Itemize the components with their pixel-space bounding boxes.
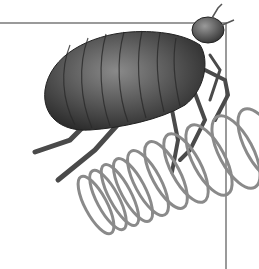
flea-body	[45, 31, 205, 130]
illustration	[0, 0, 259, 269]
flea-head	[192, 4, 234, 43]
flea-spring-artwork	[0, 0, 259, 269]
